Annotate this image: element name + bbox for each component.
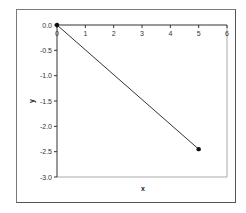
x-tick-label: 6 [225,30,229,37]
x-tick-label: 5 [197,30,201,37]
y-tick-label: -1.5 [40,98,52,105]
y-tick-label: 0.0 [42,22,52,29]
series-line [57,25,199,149]
y-tick-label: -3.0 [40,174,52,181]
x-tick-label: 3 [140,30,144,37]
y-axis: 0.0-0.5-1.0-1.5-2.0-2.5-3.0 [40,22,57,181]
line-chart: 0.0-0.5-1.0-1.5-2.0-2.5-3.0 0123456 x y [0,0,246,213]
x-tick-label: 1 [83,30,87,37]
data-point-marker [55,23,59,27]
y-tick-label: -2.0 [40,123,52,130]
x-tick-label: 4 [168,30,172,37]
x-axis: 0123456 [55,25,229,37]
y-tick-label: -2.5 [40,148,52,155]
y-tick-label: -1.0 [40,72,52,79]
x-tick-label: 0 [55,30,59,37]
x-tick-label: 2 [112,30,116,37]
data-series [55,23,201,152]
x-axis-title: x [141,185,145,192]
data-point-marker [196,147,200,151]
y-axis-title: y [28,99,36,103]
y-tick-label: -0.5 [40,47,52,54]
